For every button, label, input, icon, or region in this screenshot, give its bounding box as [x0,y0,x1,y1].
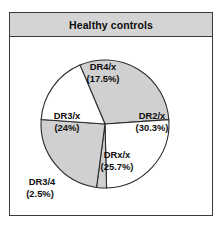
pie-chart-svg: DR2/x(30.3%)DRx/x(25.7%)DR3/4(2.5%)DR3/x… [9,37,213,216]
pie-value-dr2-x: (30.3%) [136,122,169,133]
pie-label-drx-x: DRx/x [104,149,131,160]
pie-label-dr3-x: DR3/x [54,110,81,121]
pie-value-drx-x: (25.7%) [101,161,134,172]
pie-label-dr3-4: DR3/4 [29,176,56,187]
panel-title-bar: Healthy controls [9,12,213,37]
pie-chart: DR2/x(30.3%)DRx/x(25.7%)DR3/4(2.5%)DR3/x… [9,37,213,216]
pie-value-dr3-x: (24%) [54,122,79,133]
pie-label-dr4-x: DR4/x [90,61,117,72]
page-title: Healthy controls [69,19,153,31]
pie-label-dr2-x: DR2/x [139,110,166,121]
figure-root: Healthy controls DR2/x(30.3%)DRx/x(25.7%… [0,0,224,226]
pie-value-dr4-x: (17.5%) [87,73,120,84]
pie-value-dr3-4: (2.5%) [26,188,54,199]
